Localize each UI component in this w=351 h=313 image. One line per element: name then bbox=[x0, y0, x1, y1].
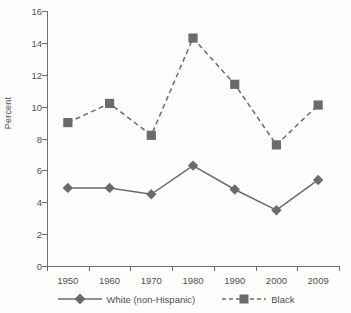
legend-entry-black: Black bbox=[221, 292, 294, 306]
data-point-marker bbox=[313, 175, 323, 185]
legend-entry-white: White (non-Hispanic) bbox=[57, 292, 196, 306]
data-point-marker bbox=[271, 205, 281, 215]
series-line-black bbox=[68, 38, 318, 145]
line-chart: Percent 1614121086420 195019601970198019… bbox=[0, 0, 351, 313]
square-marker-icon bbox=[221, 292, 267, 306]
legend-label-white: White (non-Hispanic) bbox=[107, 294, 196, 305]
data-point-marker bbox=[104, 183, 114, 193]
data-point-marker bbox=[230, 80, 239, 89]
series-plot-layer bbox=[0, 0, 351, 313]
diamond-marker-icon bbox=[57, 292, 103, 306]
chart-legend: White (non-Hispanic) Black bbox=[0, 292, 351, 306]
data-point-marker bbox=[63, 118, 72, 127]
data-point-marker bbox=[105, 99, 114, 108]
data-point-marker bbox=[147, 131, 156, 140]
data-point-marker bbox=[146, 189, 156, 199]
data-point-marker bbox=[188, 160, 198, 170]
data-point-marker bbox=[63, 183, 73, 193]
legend-label-black: Black bbox=[271, 294, 294, 305]
data-point-marker bbox=[314, 100, 323, 109]
data-point-marker bbox=[188, 33, 197, 42]
data-point-marker bbox=[272, 140, 281, 149]
data-point-marker bbox=[230, 184, 240, 194]
